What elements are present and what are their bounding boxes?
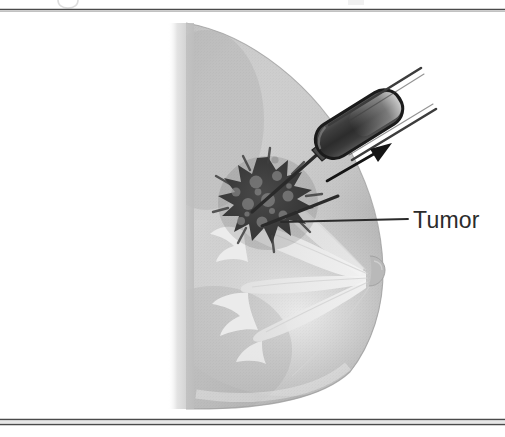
chest-wall <box>168 23 194 409</box>
tumor-label: Tumor <box>413 207 480 233</box>
bottom-rule <box>0 420 505 425</box>
breast-biopsy-illustration: Tumor <box>0 0 505 437</box>
figure-root: Tumor <box>0 0 505 437</box>
scan-fragment-right <box>348 0 364 5</box>
